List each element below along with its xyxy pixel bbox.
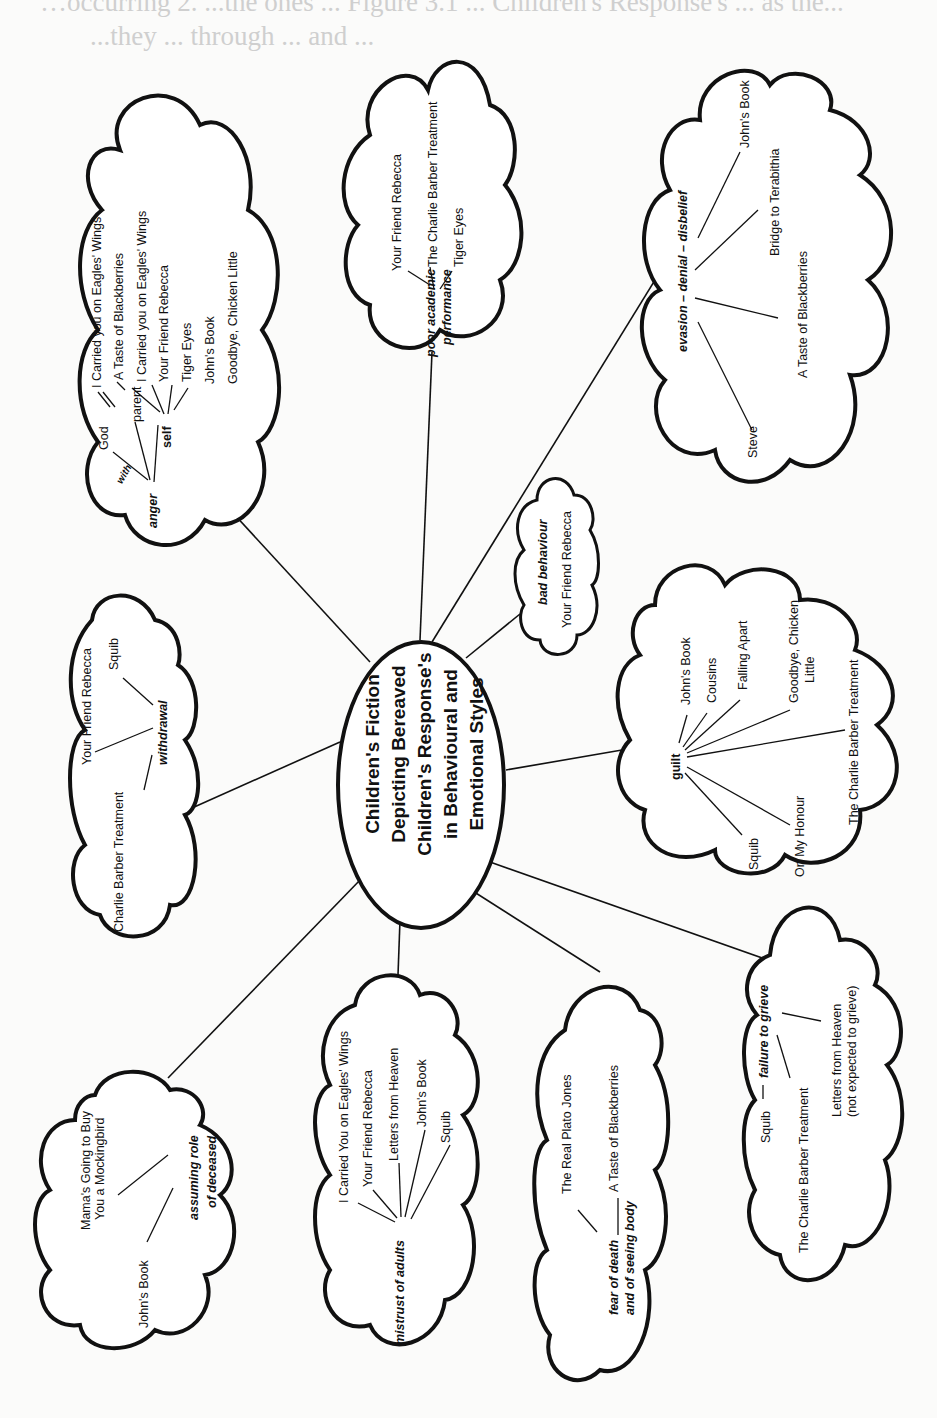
cloud-failure-to-grieve: failure to grieve Squib The Charlie Barb…: [745, 895, 925, 1295]
book-item: The Charlie Barber Treatment: [847, 660, 861, 825]
link-poor-academic: [420, 352, 432, 640]
center-node: Children's Fiction Depicting Bereaved Ch…: [336, 640, 506, 930]
book-item: Your Friend Rebecca: [560, 511, 574, 628]
book-item: I Carried you on Eagles' Wings: [90, 217, 104, 388]
book-item: Tiger Eyes: [452, 208, 466, 267]
theme-poor-academic-line1: poor academic: [424, 269, 438, 357]
book-item: Squib: [759, 1111, 773, 1143]
book-item: John's Book: [203, 316, 217, 384]
book-item: Letters from Heaven: [830, 1004, 844, 1117]
center-title-line-1: Children's Fiction: [360, 614, 386, 894]
cloud-withdrawal: withdrawal Squib Your Friend Rebecca Cha…: [70, 590, 200, 940]
theme-guilt: guilt: [669, 754, 683, 780]
book-item: Your Friend Rebecca: [80, 648, 94, 765]
book-item: I Carried you on Eagles' Wings: [135, 211, 149, 382]
theme-assuming-role-line2: of deceased: [205, 1136, 219, 1208]
node-god: God: [97, 426, 111, 450]
book-item: Cousins: [705, 658, 719, 703]
link-withdrawal: [192, 742, 340, 808]
book-item: Tiger Eyes: [180, 323, 194, 382]
node-parent: parent: [130, 387, 144, 422]
center-title-line-2: Depicting Bereaved: [386, 614, 412, 894]
book-item: John's Book: [679, 637, 693, 705]
branch-lines: [70, 590, 200, 940]
book-item: The Real Plato Jones: [560, 1074, 574, 1194]
book-item: Charlie Barber Treatment: [112, 792, 126, 932]
center-title-line-3: Children's Response's: [412, 614, 438, 894]
book-item: Goodbye, Chicken: [787, 600, 801, 703]
branch-lines: [535, 970, 670, 1390]
book-item: Falling Apart: [736, 621, 750, 690]
book-item: Bridge to Terabithia: [768, 149, 782, 256]
cloud-bad-behaviour: bad behaviour Your Friend Rebecca: [512, 470, 597, 660]
book-item: John's Book: [738, 80, 752, 148]
book-item: A Taste of Blackberries: [796, 251, 810, 378]
book-item: Squib: [107, 638, 121, 670]
book-item: Your Friend Rebecca: [390, 154, 404, 271]
theme-mistrust: mistrust of adults: [393, 1240, 407, 1345]
theme-fear-of-death-line1: fear of death: [607, 1240, 621, 1315]
cloud-shape: [512, 470, 597, 660]
book-item: (not expected to grieve): [845, 986, 859, 1117]
node-self: self: [160, 426, 174, 448]
book-item: The Charlie Barber Treatment: [426, 102, 440, 267]
book-item: You a Mockingbird: [93, 1118, 107, 1220]
book-item: Goodbye, Chicken Little: [226, 251, 240, 384]
book-item: The Charlie Barber Treatment: [797, 1088, 811, 1253]
book-item: John's Book: [415, 1059, 429, 1127]
theme-failure-to-grieve: failure to grieve: [757, 985, 771, 1078]
cloud-fear-of-death: fear of death and of seeing body The Rea…: [535, 970, 670, 1390]
theme-fear-of-death-line2: and of seeing body: [623, 1201, 637, 1315]
book-item: Your Friend Rebecca: [361, 1070, 375, 1187]
cloud-guilt: guilt John's Book Cousins Falling Apart …: [615, 555, 905, 875]
book-item: I Carried You on Eagles' Wings: [337, 1031, 351, 1203]
cloud-assuming-role: assuming role of deceased Mama's Going t…: [35, 1070, 245, 1350]
center-title-line-4: in Behavioural and: [438, 614, 464, 894]
book-item: John's Book: [137, 1260, 151, 1328]
cloud-mistrust-of-adults: mistrust of adults I Carried You on Eagl…: [315, 965, 485, 1355]
cloud-anger: anger with God parent self I Carried you…: [80, 70, 285, 550]
center-title-line-5: Emotional Styles: [464, 614, 490, 894]
theme-poor-academic-line2: performance: [440, 269, 454, 345]
book-item: Little: [803, 657, 817, 683]
book-item: A Taste of Blackberries: [607, 1065, 621, 1192]
book-item: Mama's Going to Buy: [79, 1111, 93, 1230]
branch-lines: [615, 555, 905, 875]
cloud-evasion-denial-disbelief: evasion – denial – disbelief John's Book…: [640, 60, 910, 480]
book-item: Steve: [746, 426, 760, 458]
book-item: On My Honour: [793, 796, 807, 877]
book-item: Squib: [747, 838, 761, 870]
book-item: A Taste of Blackberries: [112, 253, 126, 380]
book-item: Your Friend Rebecca: [157, 265, 171, 382]
theme-withdrawal: withdrawal: [156, 700, 170, 765]
link-fear-of-death: [468, 888, 600, 972]
anger-branch-lines: [80, 70, 285, 550]
cloud-poor-academic-performance: poor academic performance Your Friend Re…: [340, 45, 520, 355]
center-title: Children's Fiction Depicting Bereaved Ch…: [360, 614, 490, 894]
theme-bad-behaviour: bad behaviour: [536, 520, 550, 605]
theme-evasion: evasion – denial – disbelief: [676, 191, 690, 352]
theme-assuming-role-line1: assuming role: [187, 1135, 201, 1220]
theme-anger: anger: [146, 494, 160, 528]
book-item: Squib: [439, 1111, 453, 1143]
book-item: Letters from Heaven: [387, 1048, 401, 1161]
link-guilt: [506, 750, 622, 770]
link-failure-to-grieve: [490, 862, 768, 960]
